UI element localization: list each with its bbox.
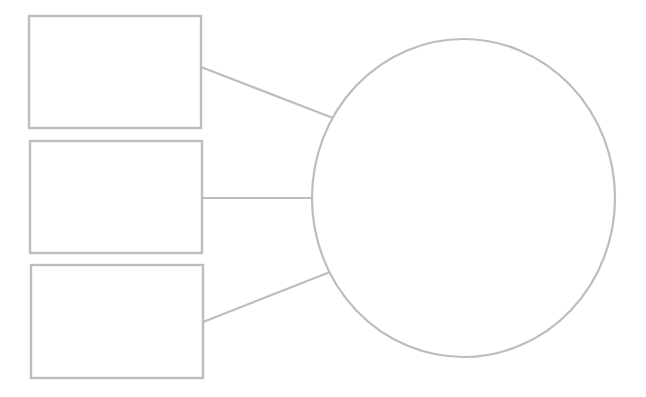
circle-group <box>312 39 615 357</box>
box-1 <box>29 16 201 128</box>
box-1-rect <box>29 16 201 128</box>
diagram-canvas <box>0 0 646 397</box>
box-2-rect <box>30 141 202 253</box>
main-circle <box>312 39 615 357</box>
connector-3 <box>203 272 330 322</box>
box-3 <box>31 265 203 378</box>
diagram-svg <box>0 0 646 397</box>
box-2 <box>30 141 202 253</box>
boxes-group <box>29 16 203 378</box>
connector-1 <box>201 67 333 118</box>
box-3-rect <box>31 265 203 378</box>
